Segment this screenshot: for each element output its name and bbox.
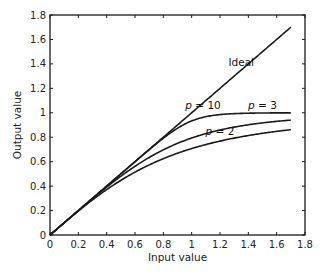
y-tick-label: 1.6 bbox=[30, 34, 46, 45]
y-tick-label: 0.2 bbox=[30, 205, 46, 216]
y-tick-label: 0.4 bbox=[30, 181, 46, 192]
x-tick-label: 1.2 bbox=[212, 239, 228, 250]
y-tick-label: 0 bbox=[40, 230, 46, 241]
annotation-p-10: p = 10 bbox=[184, 99, 221, 111]
x-tick-label: 1 bbox=[188, 239, 194, 250]
y-tick-label: 1.2 bbox=[30, 83, 46, 94]
x-tick-label: 0.6 bbox=[127, 239, 143, 250]
annotations: Idealp = 10p = 3p = 2 bbox=[184, 56, 277, 136]
x-tick-label: 0.8 bbox=[155, 239, 171, 250]
x-tick-label: 1.4 bbox=[240, 239, 256, 250]
y-axis-label: Output value bbox=[11, 91, 23, 160]
series-p-3 bbox=[50, 120, 291, 235]
series-p-2 bbox=[50, 130, 291, 235]
y-tick-label: 1 bbox=[40, 107, 46, 118]
y-tick-label: 0.6 bbox=[30, 156, 46, 167]
x-tick-label: 0 bbox=[47, 239, 53, 250]
annotation-p-2: p = 2 bbox=[205, 125, 235, 137]
annotation-p-3: p = 3 bbox=[247, 99, 277, 111]
x-tick-label: 0.4 bbox=[99, 239, 115, 250]
chart: 00.20.40.60.811.21.41.61.800.20.40.60.81… bbox=[0, 0, 327, 277]
x-tick-label: 1.6 bbox=[269, 239, 285, 250]
x-axis-label: Input value bbox=[148, 251, 207, 263]
y-tick-label: 1.8 bbox=[30, 10, 46, 21]
x-tick-label: 0.2 bbox=[70, 239, 86, 250]
y-tick-label: 0.8 bbox=[30, 132, 46, 143]
annotation-ideal: Ideal bbox=[228, 56, 254, 68]
y-tick-label: 1.4 bbox=[30, 58, 46, 69]
data-series bbox=[50, 27, 291, 235]
x-tick-label: 1.8 bbox=[297, 239, 313, 250]
